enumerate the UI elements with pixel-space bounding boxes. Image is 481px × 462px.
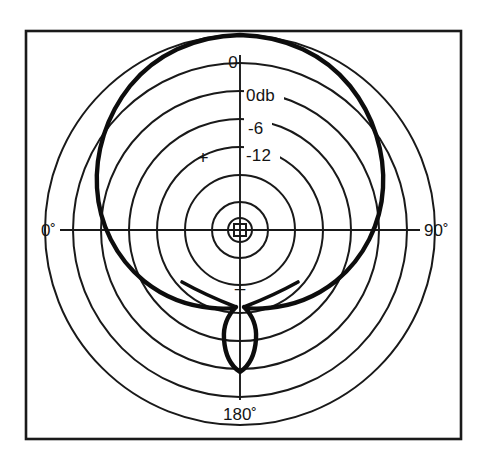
polar-plot-canvas: 0db -6 -12 0 90˚ 180˚ 0˚ + –: [0, 0, 481, 462]
radial-label-minus-12: -12: [246, 146, 271, 165]
angle-label-top: 0: [228, 53, 237, 72]
angle-label-right: 90˚: [424, 221, 449, 240]
phase-marker-minus: –: [235, 277, 246, 298]
angle-label-bottom: 180˚: [223, 405, 257, 424]
phase-markers: + –: [197, 147, 245, 298]
phase-marker-plus: +: [197, 147, 208, 168]
radial-label-minus-6: -6: [248, 119, 264, 138]
angle-label-left: 0˚: [41, 221, 56, 240]
radial-label-0db: 0db: [246, 86, 275, 105]
polar-chart-figure: 0db -6 -12 0 90˚ 180˚ 0˚ + –: [0, 0, 481, 462]
